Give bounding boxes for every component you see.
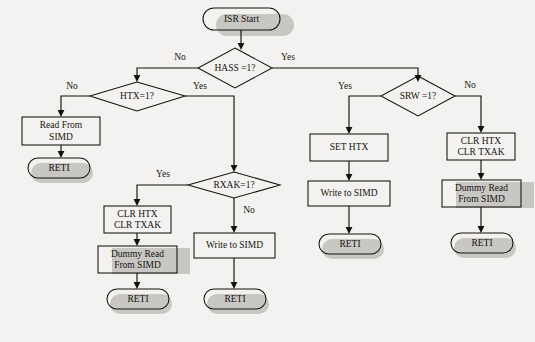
node-clr-htx-txak-right[interactable]: CLR HTX CLR TXAK — [447, 133, 515, 160]
node-htx-label: HTX=1? — [120, 91, 154, 101]
node-layer: ISR Start HASS =1? HTX=1? Read From SIMD… — [22, 8, 521, 309]
node-hass-label: HASS =1? — [215, 63, 256, 73]
arrow-htx-no-read — [58, 110, 65, 117]
arrow-srw-no-clr — [478, 126, 485, 133]
arrow-write-reti-mid — [231, 282, 238, 289]
node-set-htx[interactable]: SET HTX — [310, 134, 388, 161]
node-write-to-simd-mid-label: Write to SIMD — [206, 240, 263, 250]
edge-srw-no-clr — [455, 96, 481, 127]
edge-htx-no-read — [61, 96, 90, 111]
arrow-clr-dummy-left — [134, 239, 141, 246]
node-reti-dummy-left-label: RETI — [127, 294, 148, 304]
node-dummy-read-right-line2: From SIMD — [458, 194, 505, 204]
edge-label-htx-no: No — [66, 81, 78, 91]
arrow-rxak-no-write — [231, 226, 238, 233]
node-dummy-read-left-line1: Dummy Read — [111, 249, 164, 259]
edge-label-layer: No Yes No Yes Yes No Yes No — [66, 52, 476, 215]
node-clr-txak-right-line2: CLR TXAK — [457, 147, 504, 157]
edge-hass-no-htx — [137, 68, 198, 76]
node-write-to-simd-mid[interactable]: Write to SIMD — [194, 233, 275, 258]
node-isr-start-label: ISR Start — [224, 14, 259, 24]
node-reti-far-right-label: RETI — [471, 238, 492, 248]
node-reti-left-label: RETI — [48, 163, 69, 173]
node-dummy-read-right-line1: Dummy Read — [455, 183, 508, 193]
edge-label-srw-no: No — [464, 80, 476, 90]
node-rxak-label: RXAK=1? — [213, 180, 254, 190]
edge-label-rxak-yes: Yes — [156, 169, 170, 179]
edge-rxak-yes-clr — [137, 185, 188, 200]
node-read-from-simd-line1: Read From — [40, 120, 83, 130]
node-reti-right-mid-label: RETI — [339, 239, 360, 249]
arrow-clr-dummy-right — [478, 173, 485, 180]
arrow-hass-no-htx — [134, 75, 141, 82]
node-read-from-simd-line2: SIMD — [49, 132, 73, 142]
node-clr-htx-left-line1: CLR HTX — [117, 209, 158, 219]
flowchart-canvas: ISR Start HASS =1? HTX=1? Read From SIMD… — [0, 0, 535, 342]
node-clr-htx-txak-left[interactable]: CLR HTX CLR TXAK — [104, 206, 171, 233]
arrow-write-reti-right — [346, 227, 353, 234]
edge-hass-yes-srw — [272, 68, 418, 76]
edge-label-hass-no: No — [174, 52, 186, 62]
node-srw-label: SRW =1? — [400, 91, 437, 101]
node-dummy-read-left-line2: From SIMD — [114, 260, 161, 270]
edge-label-htx-yes: Yes — [193, 81, 207, 91]
edge-label-srw-yes: Yes — [338, 81, 352, 91]
arrow-dummy-reti-left — [134, 282, 141, 289]
node-read-from-simd[interactable]: Read From SIMD — [22, 117, 100, 145]
node-set-htx-label: SET HTX — [330, 142, 369, 152]
arrow-isr-start-hass — [238, 43, 245, 50]
arrow-read-reti — [58, 151, 65, 158]
node-write-to-simd-right[interactable]: Write to SIMD — [308, 181, 390, 206]
edge-srw-yes-sethtx — [349, 96, 381, 128]
arrow-rxak-yes-clr — [134, 199, 141, 206]
node-rxak-decision[interactable]: RXAK=1? — [188, 172, 280, 198]
arrow-htx-yes-rxak — [231, 165, 238, 172]
edge-label-rxak-no: No — [243, 205, 255, 215]
arrow-dummy-reti-right — [478, 226, 485, 233]
node-htx-decision[interactable]: HTX=1? — [90, 82, 185, 111]
edge-htx-yes-rxak — [185, 96, 234, 166]
edge-label-hass-yes: Yes — [281, 52, 295, 62]
arrow-sethtx-write — [346, 174, 353, 181]
node-clr-txak-left-line2: CLR TXAK — [114, 220, 161, 230]
node-write-to-simd-right-label: Write to SIMD — [320, 188, 377, 198]
node-hass-decision[interactable]: HASS =1? — [198, 48, 272, 88]
arrow-srw-yes-sethtx — [346, 127, 353, 134]
node-clr-htx-right-line1: CLR HTX — [461, 136, 502, 146]
node-reti-mid-label: RETI — [224, 294, 245, 304]
